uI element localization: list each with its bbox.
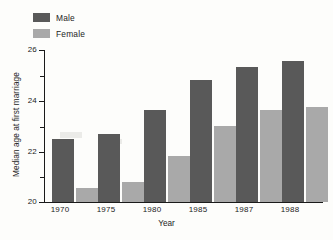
y-tick-20 [39,202,44,203]
bar-male-1985 [190,80,212,202]
bar-group-1987 [236,50,282,202]
y-tick-26 [39,50,44,51]
x-tick-label-1975: 1975 [83,205,129,214]
bar-female-1975 [122,182,144,202]
bar-male-1980 [144,110,166,203]
legend-item-male: Male [33,11,85,24]
bar-female-1970 [76,188,98,202]
y-tick-22 [39,152,44,153]
bar-group-1970 [52,50,98,202]
y-tick-label-26: 26 [17,45,37,54]
x-axis-title: Year [0,219,333,228]
y-tick-23 [40,127,44,128]
y-tick-label-24: 24 [17,96,37,105]
y-tick-25 [40,76,44,77]
bar-male-1975 [98,134,120,202]
x-tick-label-1970: 1970 [37,205,83,214]
x-axis-line [44,202,323,203]
bar-male-1970 [52,139,74,202]
legend-label-male: Male [56,13,75,23]
bar-female-1988 [306,107,328,202]
x-tick-label-1985: 1985 [175,205,221,214]
x-tick-label-1988: 1988 [267,205,313,214]
legend-swatch-female-icon [33,29,50,38]
bar-female-1985 [214,126,236,202]
bar-group-1988 [282,50,328,202]
bar-chart: Median age at first marriage 26 24 22 20 [0,0,333,240]
chart-legend: Male Female [33,11,85,43]
y-axis-title: Median age at first marriage [12,45,21,205]
bar-group-1980 [144,50,190,202]
legend-label-female: Female [56,29,85,39]
bar-female-1980 [168,156,190,202]
bar-male-1987 [236,67,258,203]
x-tick-label-1987: 1987 [221,205,267,214]
y-tick-21 [40,177,44,178]
legend-swatch-male-icon [33,13,50,22]
bar-group-1985 [190,50,236,202]
plot-area [45,50,323,202]
bar-female-1987 [260,110,282,203]
y-tick-label-22: 22 [17,147,37,156]
y-tick-24 [39,101,44,102]
legend-item-female: Female [33,27,85,40]
x-tick-label-1980: 1980 [129,205,175,214]
bar-group-1975 [98,50,144,202]
bar-male-1988 [282,61,304,202]
y-tick-label-20: 20 [17,197,37,206]
